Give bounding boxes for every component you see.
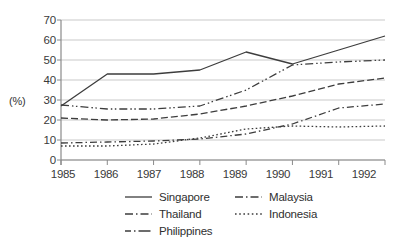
series-line-thailand — [61, 78, 385, 120]
series-lines — [61, 36, 385, 146]
chart-legend: Singapore Thailand Philippines Malaysia … — [125, 188, 365, 240]
legend-swatch-indonesia — [235, 209, 262, 219]
legend-label-singapore: Singapore — [159, 191, 210, 203]
legend-swatch-malaysia — [235, 192, 262, 202]
legend-label-philippines: Philippines — [159, 225, 212, 237]
legend-swatch-philippines — [125, 226, 152, 236]
legend-label-indonesia: Indonesia — [269, 208, 317, 220]
x-tick-marks — [61, 160, 385, 165]
line-chart: (%) 70 60 50 40 30 20 10 0 1985 1986 198… — [0, 0, 406, 245]
legend-label-thailand: Thailand — [159, 208, 202, 220]
legend-item-philippines: Philippines — [125, 222, 212, 239]
legend-label-malaysia: Malaysia — [269, 191, 313, 203]
legend-column-right: Malaysia Indonesia — [235, 188, 317, 222]
legend-swatch-singapore — [125, 192, 152, 202]
legend-item-indonesia: Indonesia — [235, 205, 317, 222]
series-line-malaysia — [61, 60, 385, 109]
legend-item-thailand: Thailand — [125, 205, 212, 222]
legend-item-malaysia: Malaysia — [235, 188, 317, 205]
gridlines — [61, 20, 385, 160]
legend-item-singapore: Singapore — [125, 188, 212, 205]
legend-swatch-thailand — [125, 209, 152, 219]
legend-column-left: Singapore Thailand Philippines — [125, 188, 212, 239]
series-line-singapore — [61, 36, 385, 106]
